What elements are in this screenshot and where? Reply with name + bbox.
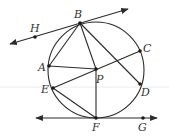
geometry-diagram: BHCAPEDFG bbox=[0, 0, 169, 137]
point-f bbox=[94, 116, 98, 120]
segments bbox=[49, 23, 140, 118]
label-a: A bbox=[37, 61, 46, 74]
label-d: D bbox=[140, 86, 150, 99]
point-a bbox=[47, 64, 51, 68]
label-g: G bbox=[138, 121, 147, 134]
label-c: C bbox=[143, 42, 152, 55]
segment-bd bbox=[80, 23, 140, 84]
label-h: H bbox=[29, 22, 40, 35]
point-c bbox=[138, 49, 142, 53]
point-h bbox=[33, 35, 37, 39]
segment-ap bbox=[49, 66, 96, 69]
point-e bbox=[51, 86, 55, 90]
labels: BHCAPEDFG bbox=[29, 8, 152, 134]
segment-ba bbox=[49, 23, 80, 66]
label-p: P bbox=[95, 73, 104, 86]
segment-bp bbox=[80, 23, 96, 69]
label-b: B bbox=[73, 8, 82, 21]
point-g bbox=[141, 116, 145, 120]
point-p bbox=[94, 67, 98, 71]
point-b bbox=[78, 21, 82, 25]
label-f: F bbox=[91, 121, 100, 134]
label-e: E bbox=[40, 83, 49, 96]
